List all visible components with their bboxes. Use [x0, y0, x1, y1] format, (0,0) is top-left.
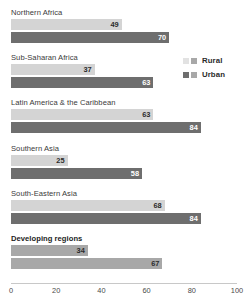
x-axis-tick-labels: 020406080100	[0, 286, 246, 300]
bar-value-label: 70	[11, 32, 169, 43]
bar-value-label: 67	[11, 258, 162, 269]
bar-group-label: Southern Asia	[11, 144, 59, 153]
x-tick-label: 0	[9, 286, 13, 295]
bar-value-label: 34	[11, 245, 88, 256]
bar-row[interactable]: 68	[11, 200, 237, 211]
x-tick-label: 20	[52, 286, 60, 295]
chart-legend: RuralUrban	[183, 51, 245, 79]
bar-row[interactable]: 67	[11, 258, 237, 269]
bar-value-label: 25	[11, 155, 68, 166]
bar-group-label: Latin America & the Caribbean	[11, 98, 115, 107]
bar-group: Latin America & the Caribbean6384	[0, 98, 246, 135]
bar-value-label: 84	[11, 213, 201, 224]
x-tick-label: 80	[188, 286, 196, 295]
x-tick-label: 100	[231, 286, 243, 295]
bar-group-label: Sub-Saharan Africa	[11, 53, 78, 62]
bar-value-label: 63	[11, 77, 153, 88]
bar-value-label: 37	[11, 64, 95, 75]
bar-group: Northern Africa4970	[0, 8, 246, 45]
x-tick-label: 60	[142, 286, 150, 295]
x-tick-label: 40	[97, 286, 105, 295]
bar-value-label: 63	[11, 109, 153, 120]
bar-row[interactable]: 84	[11, 122, 237, 133]
legend-item-urban[interactable]: Urban	[183, 65, 245, 76]
bar-group: Southern Asia2558	[0, 144, 246, 181]
bar-row[interactable]: 25	[11, 155, 237, 166]
bar-group: South-Eastern Asia6884	[0, 189, 246, 226]
bar-row[interactable]: 49	[11, 19, 237, 30]
bar-row[interactable]: 58	[11, 168, 237, 179]
legend-swatch-icon	[183, 58, 189, 64]
bar-group: Developing regions3467	[0, 234, 246, 271]
legend-label: Rural	[202, 56, 222, 65]
bar-chart: Northern Africa4970Sub-Saharan Africa376…	[0, 0, 246, 302]
bar-value-label: 68	[11, 200, 165, 211]
bar-group-label: South-Eastern Asia	[11, 189, 77, 198]
legend-label: Urban	[202, 70, 225, 79]
bar-group-label: Northern Africa	[11, 8, 62, 17]
x-axis-line	[11, 283, 237, 284]
bar-value-label: 58	[11, 168, 142, 179]
legend-swatch-icon	[183, 72, 189, 78]
bar-row[interactable]: 63	[11, 109, 237, 120]
legend-swatch-icon	[191, 72, 197, 78]
bar-value-label: 84	[11, 122, 201, 133]
plot-area: Northern Africa4970Sub-Saharan Africa376…	[0, 0, 246, 274]
legend-item-rural[interactable]: Rural	[183, 51, 245, 62]
bar-value-label: 49	[11, 19, 122, 30]
legend-swatch-icon	[191, 58, 197, 64]
bar-group-label: Developing regions	[11, 234, 82, 243]
bar-row[interactable]: 34	[11, 245, 237, 256]
bar-row[interactable]: 70	[11, 32, 237, 43]
bar-row[interactable]: 84	[11, 213, 237, 224]
